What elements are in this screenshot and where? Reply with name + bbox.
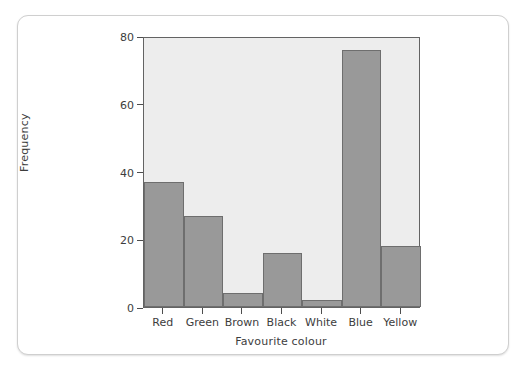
y-tick-label: 60	[120, 99, 134, 110]
x-tick-mark	[162, 308, 163, 314]
bar-white	[302, 300, 342, 307]
bar-yellow	[381, 246, 421, 307]
x-tick-label-green: Green	[186, 317, 219, 329]
y-axis: Frequency 020406080	[18, 16, 143, 356]
x-axis: RedGreenBrownBlackWhiteBlueYellow Favour…	[143, 308, 420, 356]
x-tick-label-blue: Blue	[348, 317, 372, 329]
x-axis-title: Favourite colour	[235, 335, 327, 348]
y-axis-title: Frequency	[18, 113, 31, 172]
y-tick-label: 0	[127, 303, 134, 314]
chart-card: Frequency 020406080 RedGreenBrownBlackWh…	[17, 15, 509, 355]
bar-brown	[223, 293, 263, 307]
bar-blue	[342, 50, 382, 307]
x-tick-label-brown: Brown	[225, 317, 260, 329]
x-tick-mark	[202, 308, 203, 314]
plot-area	[143, 37, 420, 308]
x-tick-label-white: White	[305, 317, 337, 329]
x-tick-mark	[360, 308, 361, 314]
bar-black	[263, 253, 303, 307]
y-tick-label: 40	[120, 167, 134, 178]
bar-green	[184, 216, 224, 307]
x-tick-label-red: Red	[152, 317, 173, 329]
x-tick-mark	[281, 308, 282, 314]
x-tick-mark	[321, 308, 322, 314]
bar-chart-figure: Frequency 020406080 RedGreenBrownBlackWh…	[18, 16, 510, 356]
bar-red	[144, 182, 184, 307]
x-tick-label-black: Black	[267, 317, 297, 329]
x-tick-mark	[241, 308, 242, 314]
x-tick-mark	[400, 308, 401, 314]
y-tick-label: 80	[120, 32, 134, 43]
bar-series	[144, 38, 419, 307]
x-tick-label-yellow: Yellow	[383, 317, 417, 329]
y-tick-label: 20	[120, 235, 134, 246]
